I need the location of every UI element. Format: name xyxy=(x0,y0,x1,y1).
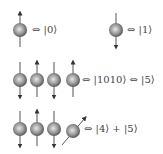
spin-down-icon xyxy=(47,111,61,146)
spin-up-icon xyxy=(13,13,27,47)
spin-up-icon xyxy=(66,62,80,97)
spin-down-icon xyxy=(13,62,27,97)
state-label-superposition: ⇔ |4⟩ + |5⟩ xyxy=(84,123,138,135)
spin-up-icon xyxy=(30,111,44,146)
spin-down-icon xyxy=(47,62,61,97)
spin-down-icon xyxy=(13,111,27,146)
spin-up-icon xyxy=(30,62,44,97)
spin-tilted-icon xyxy=(62,118,85,145)
spin-down-icon xyxy=(109,13,123,47)
state-label-1: ⇔ |1⟩ xyxy=(127,24,152,36)
state-label-0: ⇔ |0⟩ xyxy=(32,24,57,36)
state-label-1010: ⇔ |1010⟩ ⇔ |5⟩ xyxy=(82,74,155,86)
